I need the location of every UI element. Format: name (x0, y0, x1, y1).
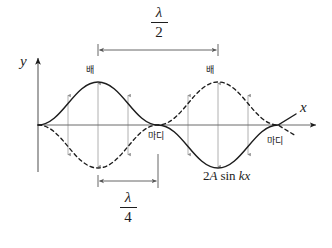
equation-argument: kx (236, 168, 251, 183)
y-axis-label: y (20, 54, 27, 69)
antinode-label-left: 배 (86, 66, 94, 75)
quarter-wavelength-numerator: λ (117, 190, 139, 206)
half-wavelength-measure (98, 44, 218, 56)
equation-function-name: sin (217, 168, 235, 183)
half-wavelength-denominator: 2 (148, 24, 170, 40)
quarter-wavelength-measure (98, 154, 158, 188)
antinode-label-right: 배 (206, 66, 214, 75)
fraction-bar-quarter (120, 207, 137, 208)
x-axis-label: x (300, 100, 307, 115)
quarter-wavelength-fraction: λ 4 (117, 190, 139, 225)
half-wavelength-fraction: λ 2 (148, 5, 170, 40)
wave-equation-label: 2Asinkx (203, 168, 250, 184)
node-label-middle: 마디 (148, 132, 164, 141)
node-label-right: 마디 (267, 137, 283, 146)
standing-wave-figure: y x 배 배 마디 마디 λ 2 λ 4 2Asinkx (0, 0, 332, 248)
fraction-bar-half (151, 22, 168, 23)
half-wavelength-numerator: λ (148, 5, 170, 21)
quarter-wavelength-denominator: 4 (117, 209, 139, 225)
